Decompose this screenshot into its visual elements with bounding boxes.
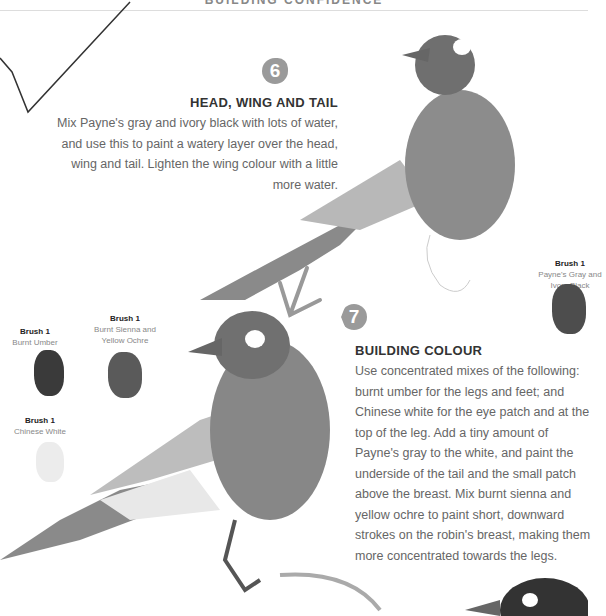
swatch-label: Brush 1 Chinese White: [10, 415, 70, 437]
brush-label: Brush 1: [10, 326, 60, 337]
color-swatch: [108, 352, 142, 398]
color-swatch: [34, 350, 64, 396]
swatch-label: Brush 1 Burnt Umber: [10, 326, 60, 348]
step-number-badge: 6: [262, 58, 288, 84]
brush-label: Brush 1: [92, 313, 158, 324]
brush-label: Brush 1: [10, 415, 70, 426]
swatch-label: Brush 1 Burnt Sienna and Yellow Ochre: [92, 313, 158, 346]
brush-label: Brush 1: [530, 258, 606, 269]
color-swatch: [36, 442, 64, 482]
step-description: Mix Payne's gray and ivory black with lo…: [40, 113, 338, 195]
robin-illustration-partial: [500, 578, 588, 616]
step-description: Use concentrated mixes of the following:…: [355, 361, 595, 566]
color-swatch: [552, 284, 586, 334]
step-title: HEAD, WING AND TAIL: [190, 95, 338, 110]
color-name: Chinese White: [10, 426, 70, 437]
color-name: Burnt Sienna and Yellow Ochre: [92, 324, 158, 346]
step-number-badge: 7: [341, 304, 367, 330]
checkmark-icon: [0, 2, 130, 112]
step-title: BUILDING COLOUR: [355, 343, 482, 358]
color-name: Burnt Umber: [10, 337, 60, 348]
